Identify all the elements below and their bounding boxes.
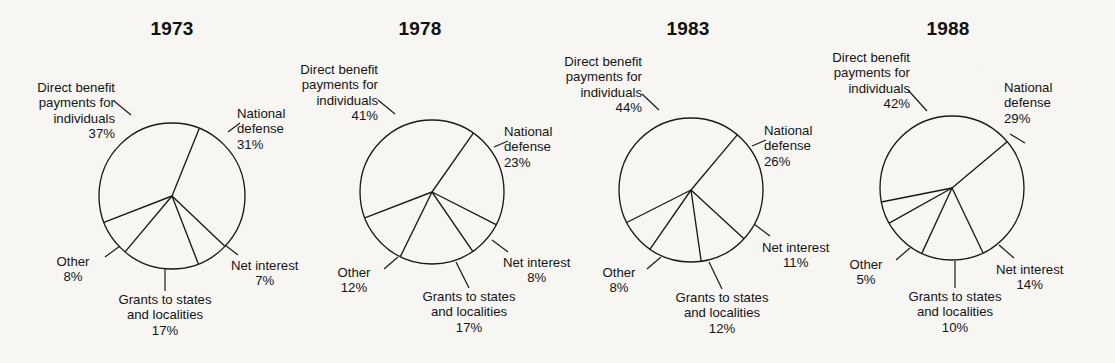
- leader-grants-1978: [456, 262, 469, 288]
- leader-direct-benefit-1988: [908, 90, 927, 111]
- pie-divider-nd-ni-1983: [691, 190, 744, 239]
- label-national-defense-1983: National defense 26%: [764, 123, 812, 169]
- pie-divider-db-nd-1973: [172, 128, 199, 196]
- pie-divider-nd-ni-1988: [952, 188, 983, 253]
- pie-divider-ni-gr-1973: [172, 196, 198, 264]
- label-grants-1978: Grants to states and localities 17%: [422, 289, 515, 335]
- label-line-2: and localities: [127, 307, 203, 322]
- pie-divider-ni-gr-1988: [922, 188, 952, 253]
- label-direct-benefit-1978: Direct benefit payments for individuals …: [300, 62, 378, 124]
- label-value: 29%: [1004, 111, 1052, 126]
- leader-net-interest-1983: [754, 224, 770, 236]
- label-other-1988: Other 5%: [850, 257, 883, 288]
- label-line-1: Direct benefit: [564, 54, 642, 69]
- label-line-1: National: [764, 123, 812, 138]
- label-other-1973: Other 8%: [57, 254, 90, 285]
- pie-geometry-1973: [99, 123, 245, 269]
- pie-divider-db-nd-1978: [432, 133, 473, 192]
- label-value: 10%: [908, 320, 1001, 335]
- label-line-1: Other: [603, 265, 636, 280]
- label-other-1978: Other 12%: [338, 265, 371, 296]
- label-value: 17%: [422, 320, 515, 335]
- label-line-2: defense: [504, 139, 551, 154]
- label-value: 37%: [37, 126, 115, 141]
- label-value: 41%: [300, 108, 378, 123]
- leader-net-interest-1978: [492, 240, 508, 252]
- label-line-2: payments for: [834, 65, 910, 80]
- pie-panel-1973: 1973 Direct benefit payments for indiv: [0, 0, 278, 363]
- leader-net-interest-1973: [225, 245, 238, 255]
- label-line-1: Grants to states: [422, 289, 515, 304]
- label-line-1: Net interest: [996, 262, 1063, 277]
- label-other-1983: Other 8%: [603, 265, 636, 296]
- pie-divider-ni-gr-1983: [691, 190, 701, 261]
- label-line-1: Direct benefit: [832, 50, 910, 65]
- label-line-1: Other: [850, 257, 883, 272]
- leader-direct-benefit-1973: [114, 101, 131, 115]
- label-net-interest-1988: Net interest 14%: [996, 262, 1063, 293]
- pie-divider-ot-db-1988: [881, 188, 952, 202]
- label-line-2: defense: [764, 138, 811, 153]
- label-value: 26%: [764, 154, 812, 169]
- pie-divider-nd-ni-1978: [432, 192, 496, 225]
- label-line-2: payments for: [39, 95, 115, 110]
- pie-geometry-1988: [880, 116, 1024, 260]
- label-line-3: individuals: [580, 85, 642, 100]
- label-value: 14%: [996, 277, 1063, 292]
- leader-national-defense-1988: [1010, 134, 1025, 143]
- label-national-defense-1988: National defense 29%: [1004, 80, 1052, 126]
- label-line-1: Grants to states: [908, 289, 1001, 304]
- label-line-2: payments for: [302, 77, 378, 92]
- pie-divider-ni-gr-1978: [432, 192, 473, 251]
- label-line-2: and localities: [431, 304, 507, 319]
- pie-geometry-1978: [360, 120, 504, 264]
- label-direct-benefit-1973: Direct benefit payments for individuals …: [37, 80, 115, 142]
- label-line-2: defense: [1004, 95, 1051, 110]
- label-line-1: Direct benefit: [300, 62, 378, 77]
- label-line-1: Grants to states: [675, 290, 768, 305]
- pie-divider-db-nd-1983: [691, 135, 737, 190]
- label-grants-1988: Grants to states and localities 10%: [908, 289, 1001, 335]
- label-line-1: Other: [57, 254, 90, 269]
- label-value: 44%: [564, 100, 642, 115]
- pie-divider-gr-ot-1988: [889, 188, 952, 223]
- label-line-2: and localities: [917, 304, 993, 319]
- leader-other-1983: [647, 257, 661, 269]
- leader-grants-1983: [709, 262, 722, 289]
- label-line-1: Direct benefit: [37, 80, 115, 95]
- figure-canvas: 1973 Direct benefit payments for indiv: [0, 0, 1115, 363]
- pie-divider-nd-ni-1973: [172, 196, 225, 246]
- leader-net-interest-1988: [999, 245, 1014, 258]
- label-grants-1983: Grants to states and localities 12%: [675, 290, 768, 336]
- pie-geometry-1983: [619, 118, 763, 262]
- label-grants-1973: Grants to states and localities 17%: [118, 292, 211, 338]
- label-value: 12%: [338, 280, 371, 295]
- label-value: 17%: [118, 323, 211, 338]
- label-line-1: National: [1004, 80, 1052, 95]
- leader-other-1978: [384, 257, 398, 269]
- pie-divider-ot-db-1983: [627, 190, 691, 223]
- label-line-2: payments for: [566, 69, 642, 84]
- pie-divider-db-nd-1988: [952, 142, 1007, 188]
- label-value: 8%: [603, 280, 636, 295]
- label-line-1: Grants to states: [118, 292, 211, 307]
- leader-other-1988: [896, 248, 910, 260]
- pie-panel-1983: 1983 Direct benefit payments for indiv: [546, 0, 814, 363]
- label-line-2: defense: [237, 121, 284, 136]
- label-value: 5%: [850, 272, 883, 287]
- label-value: 42%: [832, 96, 910, 111]
- label-line-2: and localities: [684, 305, 760, 320]
- label-line-3: individuals: [316, 93, 378, 108]
- label-line-1: Other: [338, 265, 371, 280]
- label-line-3: individuals: [848, 81, 910, 96]
- leader-direct-benefit-1983: [642, 94, 659, 110]
- label-direct-benefit-1988: Direct benefit payments for individuals …: [832, 50, 910, 112]
- leader-other-1973: [105, 246, 120, 257]
- label-value: 12%: [675, 321, 768, 336]
- label-line-3: individuals: [53, 111, 115, 126]
- leader-direct-benefit-1978: [378, 100, 395, 114]
- pie-panel-1978: 1978 Direct benefit payments for indiv: [278, 0, 546, 363]
- label-direct-benefit-1983: Direct benefit payments for individuals …: [564, 54, 642, 116]
- pie-panel-1988: 1988 Direct benefit payments for indiv: [814, 0, 1115, 363]
- label-value: 8%: [57, 269, 90, 284]
